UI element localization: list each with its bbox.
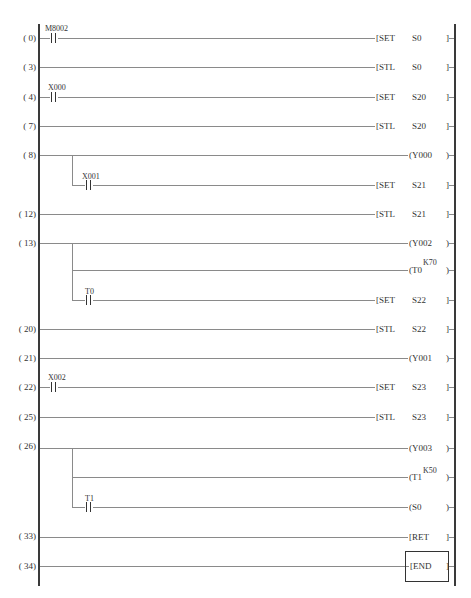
rung-wire-end bbox=[449, 477, 454, 478]
output-coil[interactable]: (S0 bbox=[408, 502, 422, 512]
rung-wire-end bbox=[449, 185, 454, 186]
step-number: ( 4) bbox=[0, 92, 36, 102]
instruction[interactable]: [STL bbox=[375, 121, 395, 131]
rung-wire bbox=[40, 155, 409, 156]
step-number: ( 22) bbox=[0, 382, 36, 392]
rung-wire-end bbox=[449, 126, 454, 127]
instruction[interactable]: [RET bbox=[408, 532, 429, 542]
instruction[interactable]: [STL bbox=[375, 209, 395, 219]
operand: S23 bbox=[412, 382, 426, 392]
rung-wire bbox=[40, 38, 376, 39]
rung-wire-end bbox=[449, 507, 454, 508]
contact-label: X002 bbox=[48, 373, 66, 382]
instruction[interactable]: [STL bbox=[375, 62, 395, 72]
rung-wire-end bbox=[449, 155, 454, 156]
contact-label: X000 bbox=[48, 83, 66, 92]
operand: S0 bbox=[412, 62, 422, 72]
instruction[interactable]: [SET bbox=[375, 295, 395, 305]
rung-wire-end bbox=[449, 67, 454, 68]
step-number: ( 7) bbox=[0, 121, 36, 131]
operand: S22 bbox=[412, 295, 426, 305]
rung-wire-end bbox=[449, 243, 454, 244]
no-contact-icon[interactable] bbox=[50, 33, 58, 43]
end-instruction[interactable]: [END bbox=[409, 561, 432, 571]
instruction[interactable]: [SET bbox=[375, 180, 395, 190]
rung-wire-end bbox=[449, 270, 454, 271]
instruction[interactable]: [SET bbox=[375, 382, 395, 392]
output-coil[interactable]: (Y003 bbox=[408, 443, 432, 453]
operand: S20 bbox=[412, 92, 426, 102]
no-contact-icon[interactable] bbox=[50, 382, 58, 392]
rung-wire-end bbox=[449, 38, 454, 39]
contact-label: M8002 bbox=[45, 24, 68, 33]
branch-rung-wire bbox=[72, 270, 409, 271]
branch-wire bbox=[72, 243, 73, 300]
rung-wire-end bbox=[449, 417, 454, 418]
output-coil[interactable]: (Y001 bbox=[408, 353, 432, 363]
timer-preset: K70 bbox=[423, 258, 437, 267]
no-contact-icon[interactable] bbox=[85, 502, 93, 512]
no-contact-icon[interactable] bbox=[50, 92, 58, 102]
rung-wire bbox=[40, 97, 376, 98]
step-number: ( 26) bbox=[0, 441, 36, 451]
operand: S0 bbox=[412, 33, 422, 43]
rung-wire bbox=[40, 417, 376, 418]
instruction[interactable]: [SET bbox=[375, 33, 395, 43]
output-coil[interactable]: (Y000 bbox=[408, 150, 432, 160]
rung-wire-end bbox=[449, 387, 454, 388]
rung-wire bbox=[40, 448, 409, 449]
instruction[interactable]: [SET bbox=[375, 92, 395, 102]
rung-wire bbox=[40, 358, 409, 359]
right-power-rail bbox=[454, 24, 456, 586]
rung-wire-end bbox=[449, 300, 454, 301]
rung-wire bbox=[40, 243, 409, 244]
operand: S21 bbox=[412, 180, 426, 190]
no-contact-icon[interactable] bbox=[85, 180, 93, 190]
left-power-rail bbox=[38, 24, 40, 586]
rung-wire-end bbox=[449, 537, 454, 538]
rung-wire bbox=[40, 214, 376, 215]
operand: S20 bbox=[412, 121, 426, 131]
step-number: ( 33) bbox=[0, 531, 36, 541]
instruction[interactable]: [STL bbox=[375, 324, 395, 334]
branch-rung-wire bbox=[72, 477, 409, 478]
operand: S22 bbox=[412, 324, 426, 334]
branch-rung-wire bbox=[72, 507, 409, 508]
rung-wire-end bbox=[449, 97, 454, 98]
timer-coil[interactable]: (T0 bbox=[408, 265, 422, 275]
rung-wire bbox=[40, 126, 376, 127]
step-number: ( 25) bbox=[0, 412, 36, 422]
rung-wire-end bbox=[449, 329, 454, 330]
step-number: ( 3) bbox=[0, 62, 36, 72]
operand: S21 bbox=[412, 209, 426, 219]
branch-wire bbox=[72, 155, 73, 185]
step-number: ( 12) bbox=[0, 209, 36, 219]
timer-coil[interactable]: (T1 bbox=[408, 472, 422, 482]
rung-wire-end bbox=[449, 358, 454, 359]
branch-rung-wire bbox=[72, 185, 376, 186]
operand: S23 bbox=[412, 412, 426, 422]
step-number: ( 20) bbox=[0, 324, 36, 334]
branch-rung-wire bbox=[72, 300, 376, 301]
rung-wire bbox=[40, 67, 376, 68]
step-number: ( 8) bbox=[0, 150, 36, 160]
rung-wire bbox=[40, 537, 409, 538]
step-number: ( 13) bbox=[0, 238, 36, 248]
rung-wire bbox=[40, 566, 409, 567]
rung-wire bbox=[40, 387, 376, 388]
rung-wire-end bbox=[449, 214, 454, 215]
step-number: ( 34) bbox=[0, 561, 36, 571]
output-coil[interactable]: (Y002 bbox=[408, 238, 432, 248]
step-number: ( 21) bbox=[0, 353, 36, 363]
rung-wire bbox=[40, 329, 376, 330]
rung-wire-end bbox=[449, 448, 454, 449]
step-number: ( 0) bbox=[0, 33, 36, 43]
no-contact-icon[interactable] bbox=[85, 295, 93, 305]
rung-wire-end bbox=[449, 566, 454, 567]
instruction[interactable]: [STL bbox=[375, 412, 395, 422]
timer-preset: K50 bbox=[423, 466, 437, 475]
